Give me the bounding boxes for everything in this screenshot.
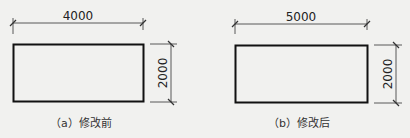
caption-a: （a）修改前 <box>50 114 112 130</box>
figure-b <box>232 19 402 106</box>
rectangle-after <box>236 46 368 103</box>
height-label-b: 2000 <box>381 59 395 90</box>
caption-b: （b）修改后 <box>268 114 330 130</box>
height-label-a: 2000 <box>156 58 170 89</box>
rectangle-before <box>14 45 144 102</box>
width-label-a: 4000 <box>63 9 94 23</box>
figure-a <box>10 18 177 105</box>
width-label-b: 5000 <box>286 10 317 24</box>
